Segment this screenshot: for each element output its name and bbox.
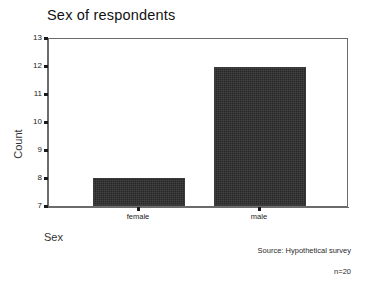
y-axis-tick-label: 11	[18, 90, 42, 98]
y-tick-mark	[44, 93, 48, 96]
plot-area	[48, 38, 348, 207]
x-tick-mark	[258, 207, 261, 211]
x-tick-mark	[137, 207, 140, 211]
source-note: Source: Hypothetical survey	[258, 246, 351, 255]
bar-male	[214, 67, 306, 206]
y-tick-mark	[44, 149, 48, 152]
chart-title: Sex of respondents	[47, 7, 176, 23]
sample-size-note: n=20	[334, 267, 351, 276]
y-axis-tick-label: 7	[18, 202, 42, 210]
x-axis-title: Sex	[44, 231, 63, 243]
bar-female	[93, 178, 185, 206]
x-axis-tick-label-male: male	[213, 212, 305, 221]
bar-chart-figure: Sex of respondents 13 12 11 10 9 8 7 Cou…	[0, 0, 369, 283]
y-axis-title: Count	[12, 114, 24, 174]
x-axis-tick-label-female: female	[92, 212, 184, 221]
x-axis-line	[48, 207, 349, 208]
y-axis-tick-label: 13	[18, 34, 42, 42]
y-tick-mark	[44, 177, 48, 180]
y-axis-tick-label: 8	[18, 174, 42, 182]
y-tick-mark	[44, 121, 48, 124]
y-tick-mark	[44, 65, 48, 68]
plot-inner	[49, 39, 347, 206]
y-tick-mark	[44, 37, 48, 40]
y-axis-tick-label: 12	[18, 62, 42, 70]
